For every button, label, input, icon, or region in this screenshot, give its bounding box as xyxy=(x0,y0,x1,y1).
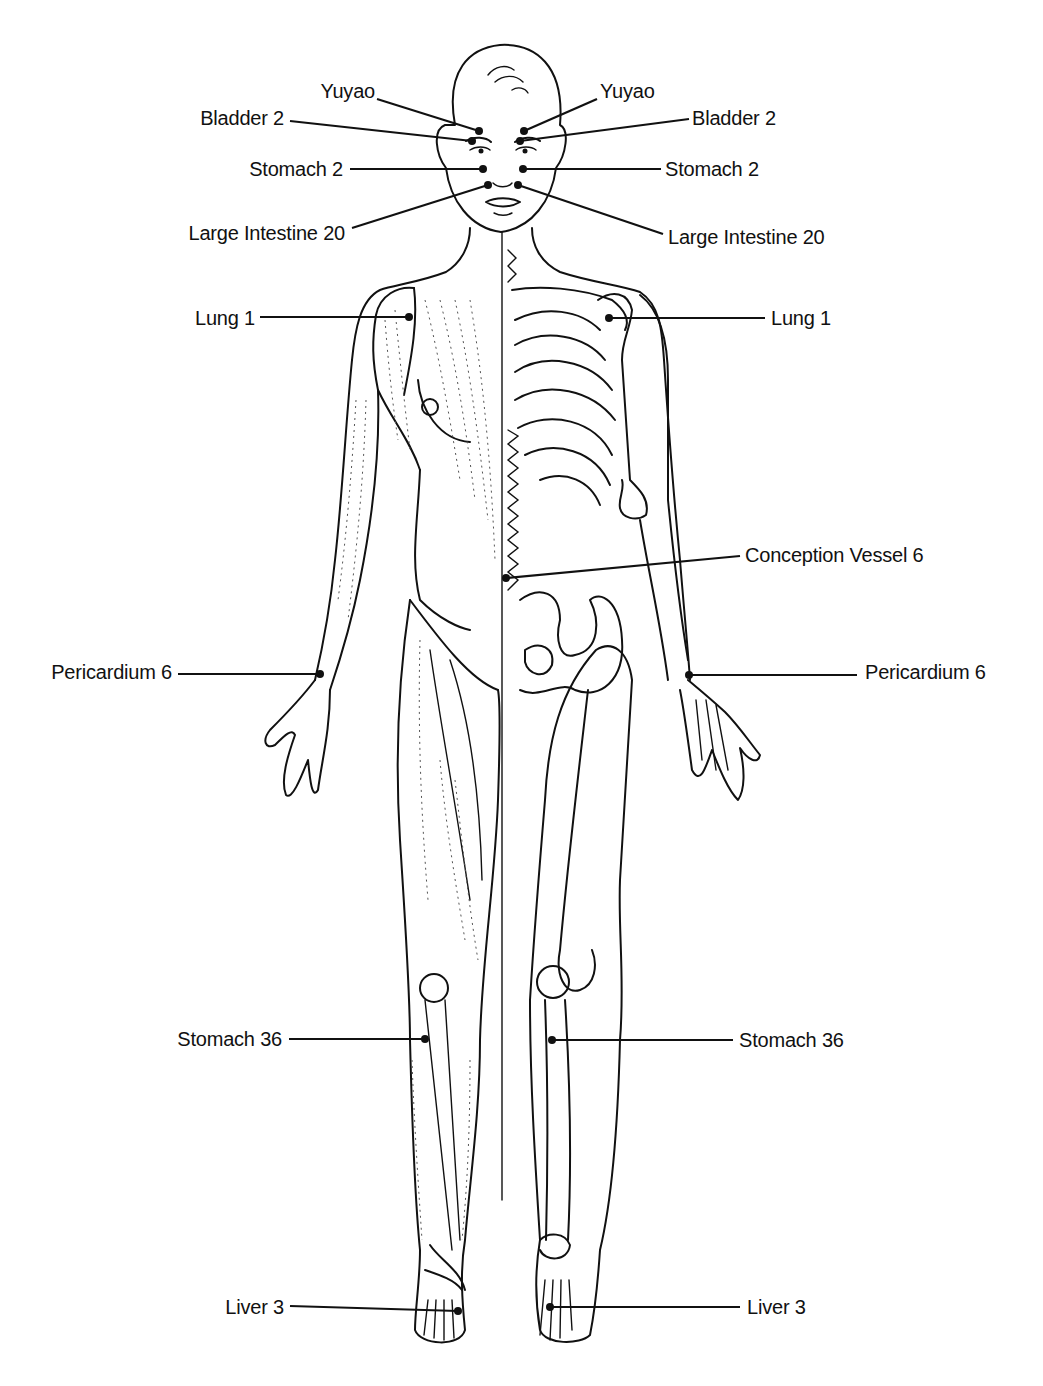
acupoint-marker-liver3-l xyxy=(546,1303,554,1311)
point-label-bladder2-l: Bladder 2 xyxy=(692,107,776,129)
acupoint-marker-pc6-l xyxy=(685,671,693,679)
point-label-pc6-r: Pericardium 6 xyxy=(51,661,172,683)
acupoint-marker-st36-l xyxy=(548,1036,556,1044)
point-label-stomach2-r: Stomach 2 xyxy=(249,158,343,180)
acupoint-marker-yuyao-r xyxy=(475,127,483,135)
leader-line-liver3-r xyxy=(290,1306,458,1311)
leader-line-yuyao-r xyxy=(377,99,479,131)
torso-figure xyxy=(352,228,688,1200)
point-label-pc6-l: Pericardium 6 xyxy=(865,661,986,683)
point-label-liver3-r: Liver 3 xyxy=(225,1296,284,1318)
leader-lines xyxy=(178,99,857,1315)
acupoint-marker-pc6-r xyxy=(316,670,324,678)
point-label-yuyao-l: Yuyao xyxy=(600,80,655,102)
point-label-li20-r: Large Intestine 20 xyxy=(188,222,345,244)
point-label-st36-l: Stomach 36 xyxy=(739,1029,844,1051)
arms-figure xyxy=(265,360,760,800)
acupoint-marker-yuyao-l xyxy=(520,127,528,135)
point-label-lung1-r: Lung 1 xyxy=(195,307,255,329)
acupoint-marker-li20-r xyxy=(484,181,492,189)
point-label-stomach2-l: Stomach 2 xyxy=(665,158,759,180)
anatomy-diagram xyxy=(0,0,1043,1386)
leader-line-li20-r xyxy=(352,185,488,228)
acupoint-marker-cv6 xyxy=(502,574,510,582)
acupoint-marker-liver3-r xyxy=(454,1307,462,1315)
acupoint-marker-bladder2-l xyxy=(516,137,524,145)
acupoint-marker-bladder2-r xyxy=(468,137,476,145)
point-label-bladder2-r: Bladder 2 xyxy=(200,107,284,129)
acupoint-marker-st36-r xyxy=(421,1035,429,1043)
acupoint-marker-stomach2-r xyxy=(479,165,487,173)
acupoint-marker-lung1-l xyxy=(605,314,613,322)
point-label-li20-l: Large Intestine 20 xyxy=(668,226,825,248)
acupoint-marker-stomach2-l xyxy=(519,165,527,173)
leader-line-bladder2-r xyxy=(290,121,472,141)
leader-line-cv6 xyxy=(506,556,740,578)
point-label-lung1-l: Lung 1 xyxy=(771,307,831,329)
legs-figure xyxy=(398,600,632,1342)
point-label-st36-r: Stomach 36 xyxy=(177,1028,282,1050)
point-label-cv6: Conception Vessel 6 xyxy=(745,544,924,566)
acupoint-marker-li20-l xyxy=(514,181,522,189)
acupoint-marker-lung1-r xyxy=(405,313,413,321)
point-label-yuyao-r: Yuyao xyxy=(320,80,375,102)
point-label-liver3-l: Liver 3 xyxy=(747,1296,806,1318)
